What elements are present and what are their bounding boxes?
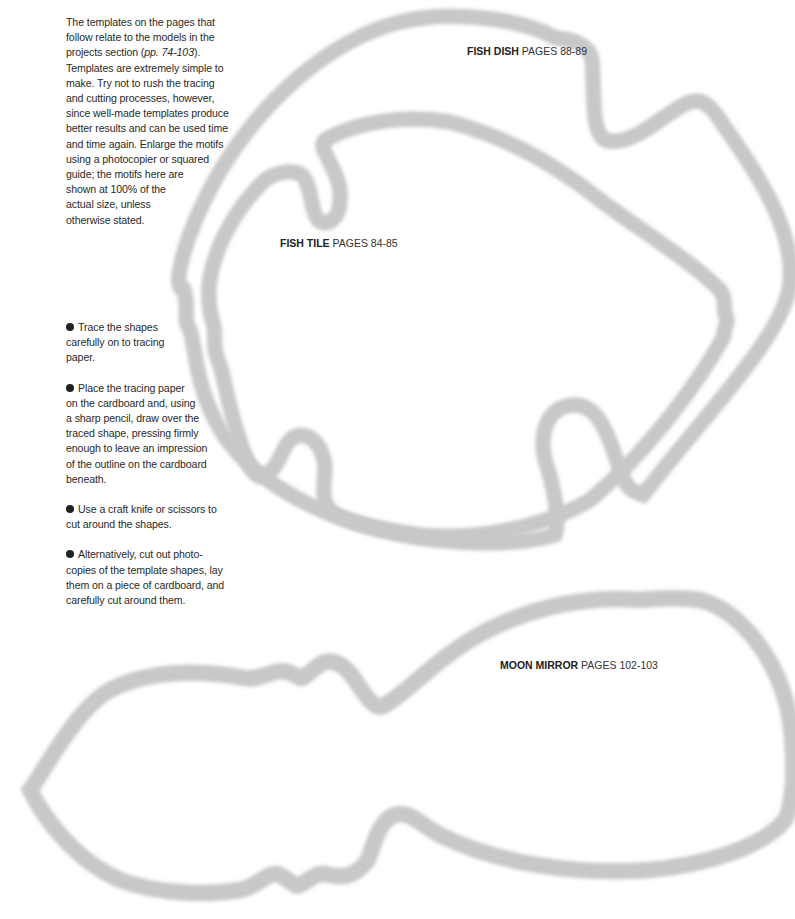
intro-line: guide; the motifs here are [66, 167, 241, 182]
step-cut: Use a craft knife or scissors to cut aro… [66, 502, 241, 532]
fish-tile-label: FISH TILE PAGES 84-85 [280, 237, 398, 249]
template-name: FISH TILE [280, 237, 330, 249]
intro-line: shown at 100% of the [66, 182, 241, 197]
intro-line: actual size, unless [66, 197, 241, 212]
intro-line: otherwise stated. [66, 213, 241, 228]
moon-mirror-label: MOON MIRROR PAGES 102-103 [500, 659, 658, 671]
template-pages: PAGES 88-89 [522, 45, 587, 57]
intro-line: using a photocopier or squared [66, 152, 241, 167]
bullet-icon [66, 323, 74, 331]
intro-line: The templates on the pages that [66, 15, 241, 30]
intro-line: Templates are extremely simple to [66, 61, 241, 76]
template-name: MOON MIRROR [500, 659, 578, 671]
fish-tile-outline [209, 119, 727, 536]
instruction-steps: Trace the shapes carefully on to tracing… [66, 320, 241, 623]
intro-line: and cutting processes, however, [66, 91, 241, 106]
intro-line: and time again. Enlarge the motifs [66, 137, 241, 152]
template-pages: PAGES 102-103 [581, 659, 658, 671]
moon-mirror-outline [30, 598, 793, 893]
fish-dish-label: FISH DISH PAGES 88-89 [467, 45, 587, 57]
bullet-icon [66, 505, 74, 513]
intro-line: better results and can be used time [66, 121, 241, 136]
bullet-icon [66, 550, 74, 558]
intro-line: follow relate to the models in the [66, 30, 241, 45]
intro-line: since well-made templates produce [66, 106, 241, 121]
intro-line: make. Try not to rush the tracing [66, 76, 241, 91]
intro-paragraph: The templates on the pages that follow r… [66, 15, 241, 228]
template-name: FISH DISH [467, 45, 519, 57]
step-place: Place the tracing paper on the cardboard… [66, 381, 241, 487]
bullet-icon [66, 384, 74, 392]
intro-line: projects section (pp. 74-103). [66, 45, 241, 60]
page-reference: pp. 74-103 [144, 46, 194, 58]
step-alternative: Alternatively, cut out photo- copies of … [66, 547, 241, 608]
template-pages: PAGES 84-85 [333, 237, 398, 249]
step-trace: Trace the shapes carefully on to tracing… [66, 320, 241, 366]
